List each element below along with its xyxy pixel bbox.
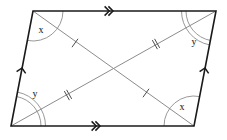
angle-x-bottom-right-label: x bbox=[180, 101, 185, 112]
angle-y-top-right-label: y bbox=[192, 36, 197, 47]
angle-y-bottom-left-arc bbox=[17, 92, 45, 126]
parallelogram-figure: xyyx bbox=[0, 0, 227, 140]
angle-y-top-right-arc bbox=[186, 11, 210, 40]
angle-y-bottom-left-label: y bbox=[33, 88, 38, 99]
angle-y-bottom-left-arc bbox=[17, 97, 41, 126]
angle-x-top-left-label: x bbox=[39, 24, 44, 35]
geometry-diagram-canvas: xyyx bbox=[0, 0, 227, 140]
